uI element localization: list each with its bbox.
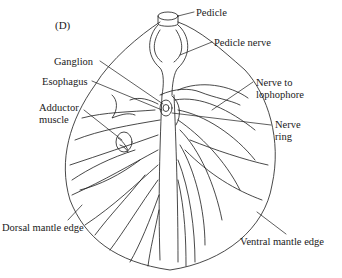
label-nerve-ring-line2: ring	[275, 131, 292, 142]
central-axis-right	[174, 95, 178, 262]
label-ventral-mantle-edge: Ventral mantle edge	[240, 236, 324, 247]
panel-label: (D)	[55, 20, 70, 31]
label-nerve-to-lophophore-line2: lophophore	[256, 89, 304, 100]
pedicle-shape	[158, 12, 178, 20]
leader-ventral-edge	[257, 212, 286, 234]
label-dorsal-mantle-edge: Dorsal mantle edge	[2, 222, 84, 233]
pedicle-lobe-right	[172, 25, 188, 95]
leader-pedicle-nerve	[180, 42, 212, 55]
leader-esophagus	[92, 81, 162, 110]
leader-pedicle	[178, 12, 194, 16]
label-adductor-muscle-line2: muscle	[39, 114, 69, 125]
leader-dorsal-edge	[68, 205, 82, 220]
esophagus-shape	[130, 98, 158, 104]
label-nerve-to-lophophore-line1: Nerve to	[256, 77, 292, 88]
label-nerve-ring-line1: Nerve	[275, 119, 301, 130]
leader-nerve-ring	[172, 113, 271, 125]
label-adductor-muscle-line1: Adductor	[39, 102, 79, 113]
label-ganglion: Ganglion	[54, 56, 93, 67]
pedicle-body	[158, 16, 178, 26]
label-pedicle: Pedicle	[196, 7, 227, 18]
label-esophagus: Esophagus	[42, 76, 88, 87]
label-pedicle-nerve: Pedicle nerve	[214, 37, 271, 48]
brachiopod-nervous-system-diagram: (D) Pedicle Pedicle nerve Ganglion Esoph…	[0, 0, 342, 278]
